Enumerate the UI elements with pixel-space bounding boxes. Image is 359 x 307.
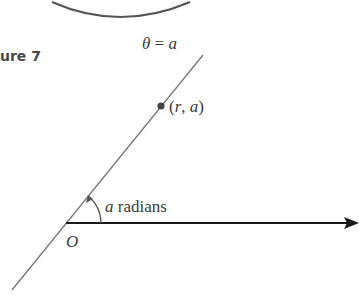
partial-circle-arc: [52, 2, 190, 17]
theta-line: [12, 55, 203, 290]
point-label: (r, a): [169, 97, 204, 116]
origin-label: O: [66, 232, 78, 251]
point-marker: [157, 102, 164, 109]
angle-label: a radians: [105, 197, 167, 216]
polar-coordinates-diagram: ure 7 θ = a (r, a) a radians O: [0, 0, 359, 307]
theta-line-label: θ = a: [142, 34, 177, 53]
figure-caption: ure 7: [0, 48, 41, 64]
angle-arrowhead-icon: [86, 195, 93, 203]
